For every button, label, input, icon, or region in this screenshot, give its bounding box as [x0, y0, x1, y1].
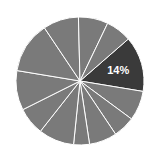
pie-slices [16, 17, 144, 145]
pie-chart: 14% [0, 0, 157, 155]
pie-labels: 14% [107, 64, 129, 76]
slice-label: 14% [107, 64, 129, 76]
